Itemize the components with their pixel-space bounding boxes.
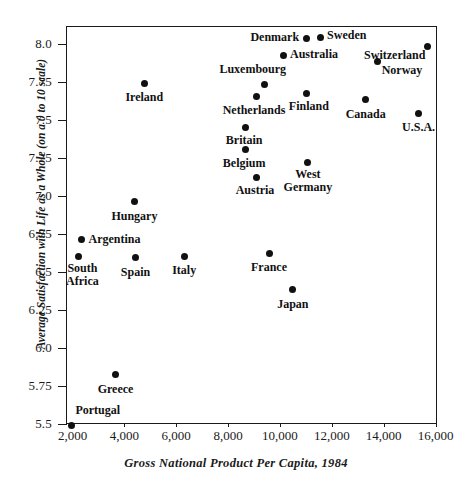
data-point-label: Switzerland <box>364 49 425 61</box>
data-point <box>374 58 381 65</box>
data-point <box>415 110 422 117</box>
data-point <box>68 422 75 429</box>
data-point-label: Austria <box>236 184 275 196</box>
data-point <box>112 371 119 378</box>
data-point-label: Portugal <box>75 404 120 416</box>
data-point <box>317 34 324 41</box>
data-point-label: Hungary <box>111 210 157 222</box>
y-axis-tick-label: 5.75 <box>8 378 52 394</box>
scatter-plot-figure: Average Satisfaction with Life as a Whol… <box>0 0 472 490</box>
data-point-label: Britain <box>226 134 263 146</box>
data-point <box>253 174 260 181</box>
data-point <box>75 253 82 260</box>
data-point-label: Canada <box>346 108 386 120</box>
data-point-label: Norway <box>382 64 423 76</box>
data-point-label: Denmark <box>250 31 299 43</box>
data-point <box>261 81 268 88</box>
data-point-label: U.S.A. <box>402 121 435 133</box>
x-axis-title: Gross National Product Per Capita, 1984 <box>0 456 472 471</box>
data-point-label: Ireland <box>125 91 163 103</box>
data-point-label: Japan <box>277 298 308 310</box>
data-point-label: Luxembourg <box>219 63 286 75</box>
data-point <box>242 124 249 131</box>
data-point-label: Spain <box>121 266 150 278</box>
data-point <box>131 198 138 205</box>
data-point <box>362 96 369 103</box>
data-point <box>289 286 296 293</box>
data-point <box>266 250 273 257</box>
data-point-label: West Germany <box>284 168 333 193</box>
data-point-label: Argentina <box>89 233 141 245</box>
data-point <box>78 236 85 243</box>
data-point-label: South Africa <box>66 262 99 287</box>
data-point <box>303 35 310 42</box>
data-point-label: Australia <box>290 48 338 60</box>
data-point-label: Finland <box>289 100 329 112</box>
data-point-label: Greece <box>98 383 134 395</box>
data-point <box>303 90 310 97</box>
y-axis-tick <box>58 424 67 425</box>
plot-area: DenmarkSwedenAustraliaSwitzerlandNorwayL… <box>66 26 437 424</box>
y-axis-tick-label: 7.25 <box>8 150 52 166</box>
y-axis-tick-label: 6.0 <box>8 340 52 356</box>
y-axis-tick-label: 7.5 <box>8 112 52 128</box>
data-point <box>242 146 249 153</box>
y-axis-tick-label: 6.25 <box>8 302 52 318</box>
y-axis-tick-label: 7.0 <box>8 188 52 204</box>
data-point-label: Belgium <box>223 157 266 169</box>
data-point-label: Italy <box>172 264 196 276</box>
data-point-label: Netherlands <box>223 104 286 116</box>
data-point <box>304 159 311 166</box>
data-point <box>181 253 188 260</box>
data-point <box>141 80 148 87</box>
y-axis-tick-label: 6.5 <box>8 264 52 280</box>
y-axis-tick-label: 7.75 <box>8 74 52 90</box>
data-point <box>132 254 139 261</box>
y-axis-tick-label: 6.75 <box>8 226 52 242</box>
data-point-label: Sweden <box>327 29 366 41</box>
y-axis-tick-label: 8.0 <box>8 36 52 52</box>
data-point <box>280 52 287 59</box>
data-point <box>253 93 260 100</box>
data-point-label: France <box>251 261 287 273</box>
x-axis-tick-label: 16,000 <box>401 428 471 444</box>
